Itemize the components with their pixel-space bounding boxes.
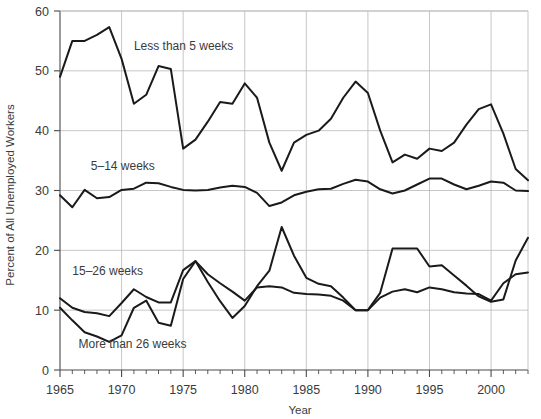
y-tick-label: 50	[35, 64, 49, 78]
y-tick-label: 20	[35, 244, 49, 258]
x-tick-label: 1970	[108, 383, 136, 397]
series-annotations: Less than 5 weeks5–14 weeks15–26 weeksMo…	[72, 39, 233, 352]
x-tick-label: 1995	[416, 383, 444, 397]
series-label-1: 5–14 weeks	[91, 159, 155, 173]
x-tick-label: 1980	[231, 383, 259, 397]
series-line-3	[60, 227, 528, 342]
x-axis-title: Year	[288, 404, 311, 416]
y-axis-tick-labels: 0102030405060	[35, 5, 49, 378]
y-tick-label: 40	[35, 124, 49, 138]
x-tick-label: 1975	[169, 383, 197, 397]
y-tick-label: 10	[35, 304, 49, 318]
x-axis-tick-labels: 19651970197519801985199019952000	[46, 383, 505, 397]
series-line-0	[60, 27, 528, 180]
series-line-1	[60, 179, 528, 208]
y-tick-label: 60	[35, 5, 49, 19]
series-label-2: 15–26 weeks	[72, 264, 143, 278]
axis-ticks	[54, 11, 528, 377]
series-label-0: Less than 5 weeks	[134, 39, 233, 53]
x-tick-label: 1965	[46, 383, 74, 397]
y-axis-title: Percent of All Unemployed Workers	[4, 104, 16, 286]
line-chart: 0102030405060 19651970197519801985199019…	[0, 0, 541, 419]
series-label-3: More than 26 weeks	[78, 337, 186, 351]
y-tick-label: 30	[35, 184, 49, 198]
series-lines	[60, 27, 528, 342]
x-tick-label: 2000	[477, 383, 505, 397]
x-tick-label: 1985	[292, 383, 320, 397]
y-tick-label: 0	[42, 364, 49, 378]
x-tick-label: 1990	[354, 383, 382, 397]
chart-container: 0102030405060 19651970197519801985199019…	[0, 0, 541, 419]
